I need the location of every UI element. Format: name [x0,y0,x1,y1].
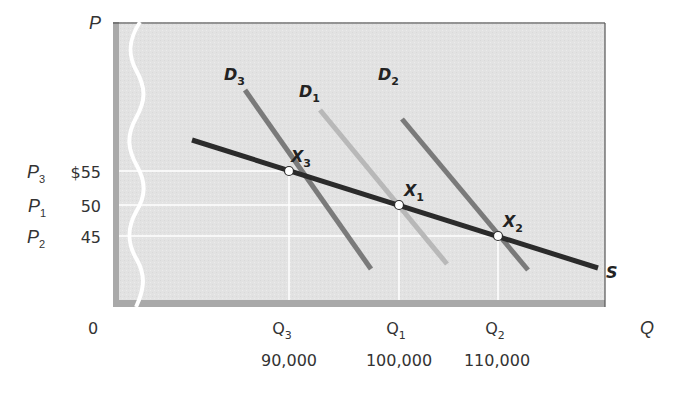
equilibrium-point-x2 [494,232,503,241]
svg-text:Q1: Q1 [386,319,406,342]
x-tick-q2: Q2 110,000 [464,319,530,370]
origin-label: 0 [88,319,98,338]
x-axis-label: Q [640,318,654,338]
label-s: S [606,263,618,282]
y-tick-p1: P1 50 [28,196,101,219]
svg-text:P2: P2 [27,227,45,250]
equilibrium-point-x3 [285,167,294,176]
y-tick-p2: P2 45 [27,227,101,250]
svg-text:P3: P3 [27,162,45,185]
equilibrium-point-x1 [395,201,404,210]
svg-text:P1: P1 [28,196,46,219]
x-tick-q1: Q1 100,000 [366,319,432,370]
x-tick-q3: Q3 90,000 [261,319,317,370]
svg-text:90,000: 90,000 [261,351,317,370]
svg-text:$55: $55 [70,163,101,182]
supply-demand-chart: D3 D1 D2 X3 X1 X2 S P Q 0 P3 $55 P1 50 P… [0,0,683,395]
svg-text:110,000: 110,000 [464,351,530,370]
svg-text:Q3: Q3 [272,319,292,342]
svg-text:100,000: 100,000 [366,351,432,370]
x-axis-band [113,300,605,307]
y-axis-label: P [89,13,101,33]
plot-area [113,22,605,307]
svg-text:45: 45 [81,228,101,247]
svg-text:50: 50 [81,197,101,216]
svg-text:Q2: Q2 [485,319,505,342]
y-tick-p3: P3 $55 [27,162,101,185]
y-axis-band [113,22,119,307]
